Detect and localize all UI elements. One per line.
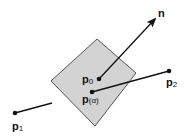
plane	[51, 39, 136, 126]
label-p1: p1	[12, 120, 24, 133]
segment-p1-to-plane	[15, 103, 52, 113]
point-p1	[13, 111, 18, 116]
diagram-canvas: n p0 p(α) p1 p2	[0, 0, 187, 138]
point-p2	[167, 69, 172, 74]
point-p-alpha	[90, 90, 95, 95]
label-n: n	[158, 7, 165, 19]
point-p0	[97, 77, 102, 82]
label-p2: p2	[166, 76, 178, 89]
